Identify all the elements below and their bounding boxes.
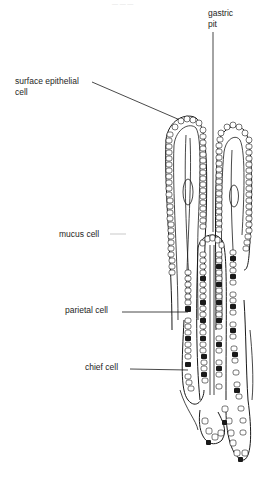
leader-surface-epithelial <box>92 82 180 120</box>
leader-chief <box>130 369 188 370</box>
epithelial-cells <box>166 116 252 456</box>
gastric-gland-illustration <box>0 0 270 481</box>
